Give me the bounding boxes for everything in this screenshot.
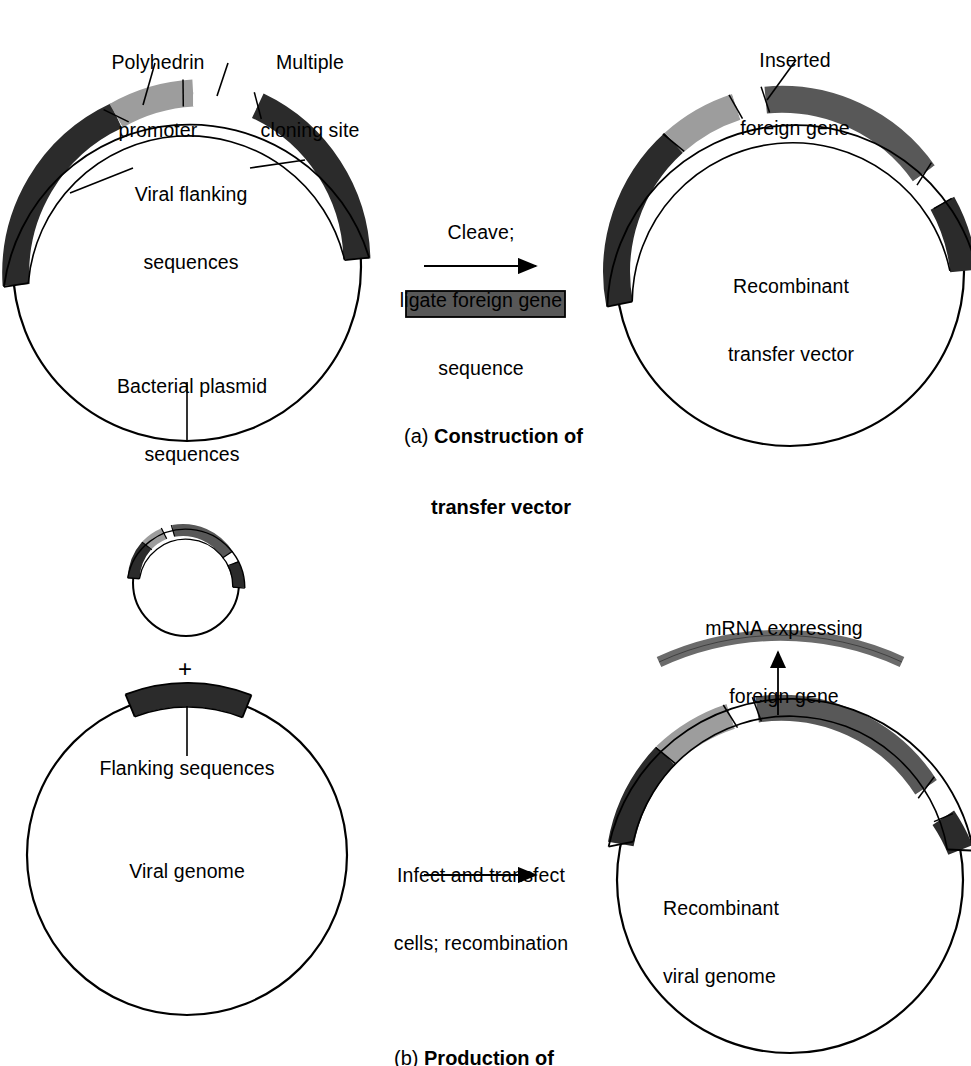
segment-flanking-left bbox=[621, 756, 666, 845]
recombinant-transfer-vector-small bbox=[128, 525, 245, 636]
segment-flanking-sequences bbox=[130, 695, 247, 707]
label-bacterial-plasmid-sequences: Bacterial plasmid sequences bbox=[92, 330, 292, 511]
viral-genome bbox=[27, 683, 347, 1015]
panel-a-caption-line1: Construction of bbox=[434, 425, 583, 447]
segment-inserted-foreign-gene bbox=[173, 530, 228, 555]
label-inserted-foreign-gene: Inserted foreign gene bbox=[690, 4, 900, 185]
label-mrna-expressing-foreign-gene: mRNA expressing foreign gene bbox=[675, 572, 893, 753]
segment-flanking-right bbox=[233, 564, 239, 588]
panel-a-caption-marker: (a) bbox=[404, 425, 428, 447]
plus-sign: + bbox=[178, 655, 192, 683]
label-infect-transfect: Infect and transfect cells; recombinatio… bbox=[367, 819, 595, 1000]
segment-flanking-left bbox=[617, 143, 674, 304]
panel-a-caption-line2: transfer vector bbox=[431, 496, 571, 518]
segment-polyhedrin-promoter bbox=[147, 534, 165, 546]
label-flanking-sequences: Flanking sequences bbox=[76, 757, 298, 780]
panel-a-caption: (a) Construction of transfer vector bbox=[404, 378, 583, 567]
figure-canvas: Polyhedrin promoter Multiple cloning sit… bbox=[0, 0, 971, 1066]
label-recombinant-transfer-vector: Recombinant transfer vector bbox=[681, 230, 901, 411]
panel-b-caption: (b) Production of recombinant virus bbox=[394, 1000, 571, 1066]
panel-b-caption-marker: (b) bbox=[394, 1047, 418, 1066]
label-viral-genome: Viral genome bbox=[97, 860, 277, 883]
panel-b-caption-line1: Production of bbox=[424, 1047, 554, 1066]
label-viral-flanking-sequences: Viral flanking sequences bbox=[96, 138, 286, 319]
segment-mcs-right bbox=[228, 555, 233, 564]
label-recombinant-viral-genome: Recombinant viral genome bbox=[663, 852, 883, 1033]
segment-mcs-right bbox=[924, 174, 943, 204]
segment-mcs-right bbox=[926, 788, 943, 818]
